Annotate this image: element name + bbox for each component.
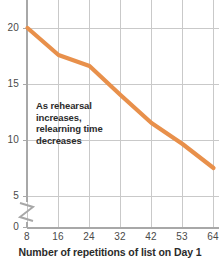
x-tick-label-64: 64 [202, 231, 220, 242]
y-tick-label-5: 5 [0, 190, 19, 201]
x-tick-label-8: 8 [16, 231, 38, 242]
x-tick-label-24: 24 [78, 231, 100, 242]
annotation-line-4: decreases [36, 135, 118, 147]
relearning-time-line-chart: 20 15 10 5 0 8 16 24 32 42 53 64 As rehe… [0, 0, 220, 264]
x-tick-label-42: 42 [140, 231, 162, 242]
y-tick-label-20: 20 [0, 22, 19, 33]
chart-annotation: As rehearsal increases, relearning time … [36, 100, 118, 146]
annotation-line-3: relearning time [36, 123, 118, 135]
x-tick-label-16: 16 [47, 231, 69, 242]
x-tick-label-32: 32 [109, 231, 131, 242]
x-tick-label-53: 53 [171, 231, 193, 242]
annotation-line-1: As rehearsal [36, 100, 118, 112]
y-axis-break-zigzag [20, 203, 33, 221]
x-axis-title: Number of repetitions of list on Day 1 [0, 246, 220, 258]
y-tick-label-10: 10 [0, 134, 19, 145]
annotation-line-2: increases, [36, 112, 118, 124]
y-tick-label-15: 15 [0, 78, 19, 89]
